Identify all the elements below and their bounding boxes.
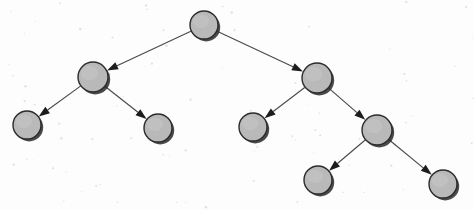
paper-speck xyxy=(205,206,208,209)
paper-noise-layer xyxy=(8,1,474,209)
node-highlight xyxy=(307,170,323,183)
paper-speck xyxy=(231,11,233,13)
paper-speck xyxy=(294,139,295,140)
tree-edge xyxy=(48,86,81,110)
paper-speck xyxy=(163,29,165,31)
tree-node[interactable] xyxy=(144,114,174,144)
paper-speck xyxy=(359,138,361,140)
tree-node[interactable] xyxy=(429,170,459,200)
paper-speck xyxy=(151,63,153,65)
edge-layer xyxy=(39,31,432,175)
paper-speck xyxy=(8,64,9,65)
tree-node[interactable] xyxy=(304,166,334,196)
paper-speck xyxy=(406,80,408,82)
tree-edge xyxy=(329,88,357,112)
tree-edge xyxy=(105,87,138,113)
paper-speck xyxy=(10,11,11,12)
node-highlight xyxy=(193,15,209,28)
node-layer xyxy=(13,11,459,200)
paper-speck xyxy=(116,105,117,106)
paper-speck xyxy=(221,68,222,69)
paper-speck xyxy=(145,4,147,6)
paper-speck xyxy=(250,109,252,111)
paper-speck xyxy=(99,184,101,186)
paper-speck xyxy=(189,99,191,101)
paper-speck xyxy=(24,100,26,102)
tree-edge xyxy=(337,140,365,163)
paper-speck xyxy=(52,167,54,169)
paper-speck xyxy=(95,185,97,187)
paper-speck xyxy=(390,165,392,167)
paper-speck xyxy=(363,192,364,193)
paper-speck xyxy=(405,1,407,3)
paper-speck xyxy=(342,191,344,193)
tree-edge xyxy=(217,31,293,67)
tree-node[interactable] xyxy=(190,11,220,41)
paper-speck xyxy=(79,28,82,31)
paper-speck xyxy=(349,165,350,166)
paper-speck xyxy=(59,2,61,4)
node-highlight xyxy=(81,66,98,80)
paper-speck xyxy=(13,164,15,166)
paper-speck xyxy=(305,142,306,143)
paper-speck xyxy=(26,158,28,160)
tree-node[interactable] xyxy=(78,62,110,94)
edge-arrowhead-icon xyxy=(39,107,50,117)
edge-arrowhead-icon xyxy=(265,108,276,118)
paper-speck xyxy=(165,44,167,46)
paper-speck xyxy=(95,34,96,35)
node-highlight xyxy=(147,118,163,131)
paper-speck xyxy=(185,202,186,203)
paper-speck xyxy=(471,37,472,38)
node-highlight xyxy=(365,119,382,133)
edge-arrowhead-icon xyxy=(291,63,303,71)
paper-speck xyxy=(319,112,321,114)
paper-speck xyxy=(163,154,165,156)
paper-speck xyxy=(222,6,224,8)
tree-node[interactable] xyxy=(302,63,334,95)
paper-speck xyxy=(130,137,132,139)
paper-speck xyxy=(254,151,255,152)
binary-tree-diagram xyxy=(0,0,474,210)
paper-speck xyxy=(176,202,177,203)
tree-canvas xyxy=(0,0,474,210)
paper-speck xyxy=(91,138,93,140)
paper-speck xyxy=(34,21,35,22)
paper-speck xyxy=(256,146,258,148)
tree-edge xyxy=(389,140,423,168)
paper-speck xyxy=(319,134,321,136)
paper-speck xyxy=(465,6,467,8)
paper-speck xyxy=(271,52,272,53)
paper-speck xyxy=(471,142,473,144)
paper-speck xyxy=(58,123,60,125)
paper-speck xyxy=(184,149,186,151)
paper-speck xyxy=(147,9,149,11)
paper-speck xyxy=(405,122,407,124)
paper-speck xyxy=(213,100,214,101)
tree-node[interactable] xyxy=(239,113,269,143)
paper-speck xyxy=(308,26,310,28)
paper-speck xyxy=(168,37,169,38)
tree-edge xyxy=(117,31,191,66)
paper-speck xyxy=(338,158,339,159)
paper-speck xyxy=(389,48,390,49)
node-highlight xyxy=(242,117,258,130)
edge-arrowhead-icon xyxy=(107,62,119,70)
paper-speck xyxy=(296,201,298,203)
paper-speck xyxy=(117,201,119,203)
paper-speck xyxy=(169,155,170,156)
paper-speck xyxy=(233,29,235,31)
paper-speck xyxy=(291,135,293,137)
paper-speck xyxy=(63,200,64,201)
paper-speck xyxy=(313,152,314,153)
edge-arrowhead-icon xyxy=(136,109,147,119)
tree-node[interactable] xyxy=(362,115,394,147)
paper-speck xyxy=(454,66,455,67)
tree-node[interactable] xyxy=(13,111,43,141)
paper-speck xyxy=(32,159,33,160)
paper-speck xyxy=(403,73,405,75)
paper-speck xyxy=(403,189,404,190)
paper-speck xyxy=(24,85,27,88)
paper-speck xyxy=(111,37,113,39)
paper-speck xyxy=(12,75,14,77)
